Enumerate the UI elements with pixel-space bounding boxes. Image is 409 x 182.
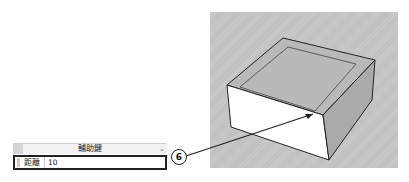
drag-handle[interactable] (13, 144, 23, 154)
field-grip (17, 158, 20, 167)
vcb-panel: 輔助鍵 ⌄ 距離 (13, 143, 167, 170)
callout-number: 6 (171, 149, 187, 165)
dropdown-label: 輔助鍵 (23, 144, 157, 154)
distance-field[interactable]: 距離 (13, 155, 167, 170)
chevron-down-icon[interactable]: ⌄ (157, 144, 167, 154)
distance-label: 距離 (24, 157, 45, 168)
modifier-dropdown[interactable]: 輔助鍵 ⌄ (13, 143, 167, 154)
distance-input[interactable] (48, 158, 148, 167)
